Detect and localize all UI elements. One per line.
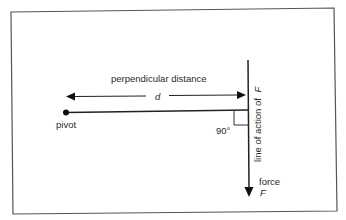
svg-text:line of action of F: line of action of F	[252, 85, 263, 162]
right-angle-label: 90°	[216, 125, 231, 136]
force-arrow-head-icon	[245, 187, 254, 197]
distance-arrow-right-head-icon	[237, 91, 246, 99]
force-symbol: F	[260, 187, 267, 198]
moment-diagram: perpendicular distance d pivot 90° line …	[0, 0, 346, 220]
line-of-action-symbol: F	[252, 85, 263, 92]
line-of-action-label: line of action of F	[252, 85, 263, 162]
lever-line	[66, 110, 248, 113]
perpendicular-distance-label: perpendicular distance	[111, 73, 207, 84]
line-of-action-text: line of action of	[252, 98, 263, 162]
right-angle-marker-icon	[234, 111, 248, 126]
force-line-of-action	[248, 60, 249, 188]
force-label: force	[259, 176, 280, 187]
distance-arrow-right-shaft	[169, 95, 238, 96]
pivot-point-icon	[63, 110, 69, 116]
pivot-label: pivot	[56, 119, 76, 130]
distance-arrow-left-head-icon	[66, 93, 75, 101]
distance-arrow-left-shaft	[74, 96, 146, 97]
distance-symbol: d	[155, 91, 161, 102]
